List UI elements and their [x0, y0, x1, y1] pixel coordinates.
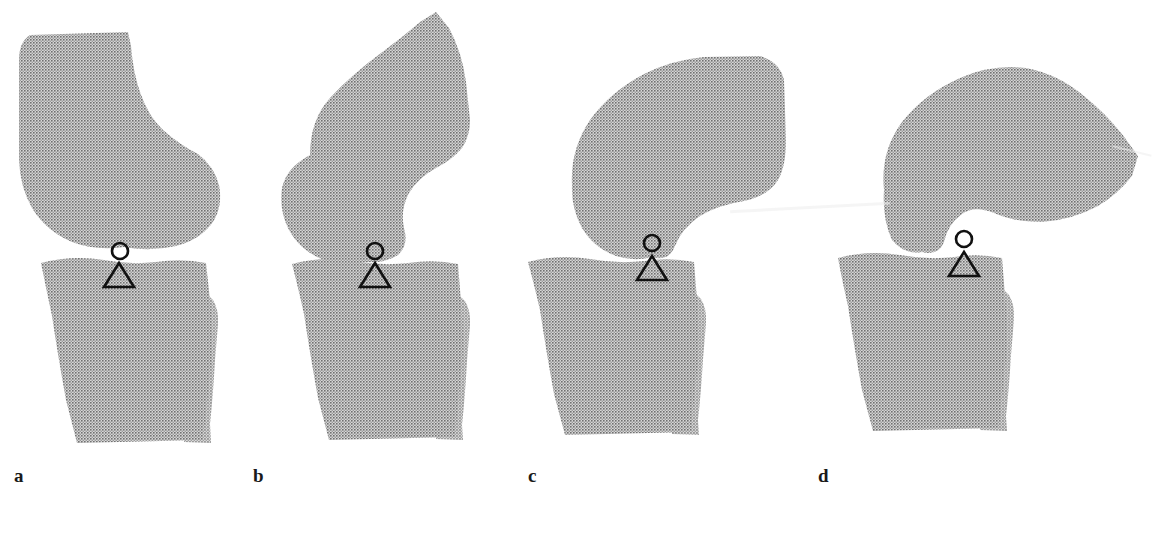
panel-a-bones — [19, 32, 220, 443]
femur-c — [572, 56, 786, 259]
panel-label-c: c — [528, 466, 536, 485]
femur-a — [19, 32, 220, 249]
femur-b — [281, 12, 470, 263]
panel-label-d: d — [818, 466, 829, 485]
panel-b-bones — [281, 12, 470, 440]
tibia-c — [528, 257, 699, 435]
femur-d — [883, 67, 1138, 253]
bones-layer — [0, 0, 1156, 553]
femoral-contact-point-circle-d — [956, 231, 972, 247]
panel-c-bones — [528, 56, 786, 435]
knee-flexion-figure: a b c d — [0, 0, 1156, 553]
tibia-d — [838, 253, 1007, 431]
panel-d-bones — [838, 67, 1138, 431]
panel-label-b: b — [253, 466, 264, 485]
panel-label-a: a — [14, 466, 24, 485]
